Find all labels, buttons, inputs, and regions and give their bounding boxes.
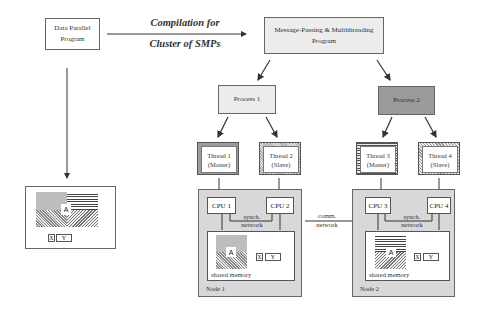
source-line2: Program xyxy=(54,34,90,45)
shared-memory-label: shared memory xyxy=(369,271,409,278)
target-line2: Program xyxy=(274,36,373,47)
var-y: Y xyxy=(265,253,281,261)
node-2: CPU 3 CPU 4 synch.network A X Y shared m… xyxy=(352,189,455,297)
var-y: Y xyxy=(423,253,439,261)
thread-3-role: (Master) xyxy=(367,160,389,169)
comm-line2: network xyxy=(309,220,345,229)
block-hstripe xyxy=(67,192,98,210)
message-passing-program-box: Message-Passing & MultithreadingProgram xyxy=(264,17,384,54)
array-a-label: A xyxy=(61,204,71,215)
shared-memory-2: A X Y shared memory xyxy=(365,231,450,281)
target-line1: Message-Passing & Multithreading xyxy=(274,25,373,36)
comm-network-label: comm.network xyxy=(309,211,345,229)
process-2-box: Process 2 xyxy=(378,86,435,115)
node-2-label: Node 2 xyxy=(360,285,379,292)
comm-line1: comm. xyxy=(309,211,345,220)
data-parallel-program-box: Data ParallelProgram xyxy=(45,18,100,50)
thread-2-box: Thread 2(Slave) xyxy=(259,142,301,175)
array-a-label: A xyxy=(386,247,396,257)
array-a-label: A xyxy=(226,247,236,257)
shared-memory-1: A X Y shared memory xyxy=(207,231,295,281)
shared-memory-label: shared memory xyxy=(211,271,251,278)
thread-1-role: (Master) xyxy=(208,160,230,169)
block-diag2 xyxy=(67,210,98,227)
thread-1-name: Thread 1 xyxy=(207,151,230,160)
thread-2-role: (Slave) xyxy=(272,160,291,169)
thread-2-name: Thread 2 xyxy=(269,151,292,160)
process-1-box: Process 1 xyxy=(218,85,276,114)
thread-3-name: Thread 3 xyxy=(366,151,389,160)
thread-4-name: Thread 4 xyxy=(428,151,451,160)
thread-3-box: Thread 3(Master) xyxy=(356,142,398,175)
node-1-label: Node 1 xyxy=(206,285,225,292)
thread-4-role: (Slave) xyxy=(431,160,450,169)
thread-4-box: Thread 4(Slave) xyxy=(418,142,460,175)
node-1: CPU 1 CPU 2 synch.network A X Y shared m… xyxy=(198,189,302,297)
var-y: Y xyxy=(56,234,72,242)
var-x: X xyxy=(256,253,263,261)
var-x: X xyxy=(414,253,421,261)
var-x: X xyxy=(48,234,55,242)
source-line1: Data Parallel xyxy=(54,23,90,34)
data-distribution-panel: A X Y xyxy=(25,186,116,249)
compile-label-bottom: Cluster of SMPs xyxy=(130,38,240,49)
compile-label-top: Compilation for xyxy=(130,17,240,28)
thread-1-box: Thread 1(Master) xyxy=(197,142,239,175)
